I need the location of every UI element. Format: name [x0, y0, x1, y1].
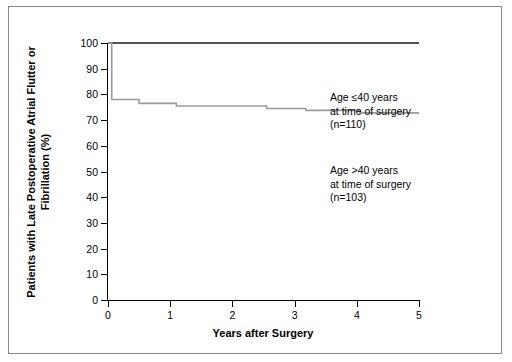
y-tick-30: [101, 223, 108, 224]
x-tick-2: [232, 300, 233, 307]
y-tick-label-60: 60: [86, 140, 98, 152]
y-tick-label-10: 10: [86, 268, 98, 280]
x-tick-label-0: 0: [105, 309, 111, 321]
y-tick-0: [101, 300, 108, 301]
y-tick-label-80: 80: [86, 88, 98, 100]
y-tick-label-100: 100: [80, 37, 98, 49]
y-tick-60: [101, 146, 108, 147]
y-tick-label-0: 0: [92, 294, 98, 306]
y-tick-10: [101, 274, 108, 275]
x-axis-title: Years after Surgery: [107, 327, 419, 339]
y-tick-80: [101, 94, 108, 95]
y-axis-title: Patients with Late Postoperative Atrial …: [27, 43, 49, 301]
y-tick-40: [101, 197, 108, 198]
figure-border: Patients with Late Postoperative Atrial …: [8, 6, 502, 354]
plot-area: 100 90 80 70 60 50 40 30 20 10 0 0 1: [107, 43, 419, 301]
annotation-age-young: Age ≤40 years at time of surgery (n=110): [330, 91, 411, 132]
x-tick-0: [108, 300, 109, 307]
y-tick-70: [101, 120, 108, 121]
x-tick-label-2: 2: [229, 309, 235, 321]
x-tick-4: [357, 300, 358, 307]
figure-page: Patients with Late Postoperative Atrial …: [0, 0, 512, 362]
y-tick-label-70: 70: [86, 114, 98, 126]
x-tick-5: [419, 300, 420, 307]
y-tick-90: [101, 69, 108, 70]
y-tick-label-40: 40: [86, 191, 98, 203]
y-tick-50: [101, 172, 108, 173]
x-tick-3: [295, 300, 296, 307]
x-tick-label-4: 4: [354, 309, 360, 321]
y-tick-20: [101, 249, 108, 250]
y-tick-label-50: 50: [86, 166, 98, 178]
x-tick-label-1: 1: [167, 309, 173, 321]
x-tick-label-3: 3: [292, 309, 298, 321]
y-tick-100: [101, 43, 108, 44]
y-tick-label-90: 90: [86, 63, 98, 75]
annotation-age-old: Age >40 years at time of surgery (n=103): [330, 164, 411, 205]
x-tick-label-5: 5: [416, 309, 422, 321]
y-tick-label-30: 30: [86, 217, 98, 229]
x-tick-1: [170, 300, 171, 307]
y-tick-label-20: 20: [86, 243, 98, 255]
